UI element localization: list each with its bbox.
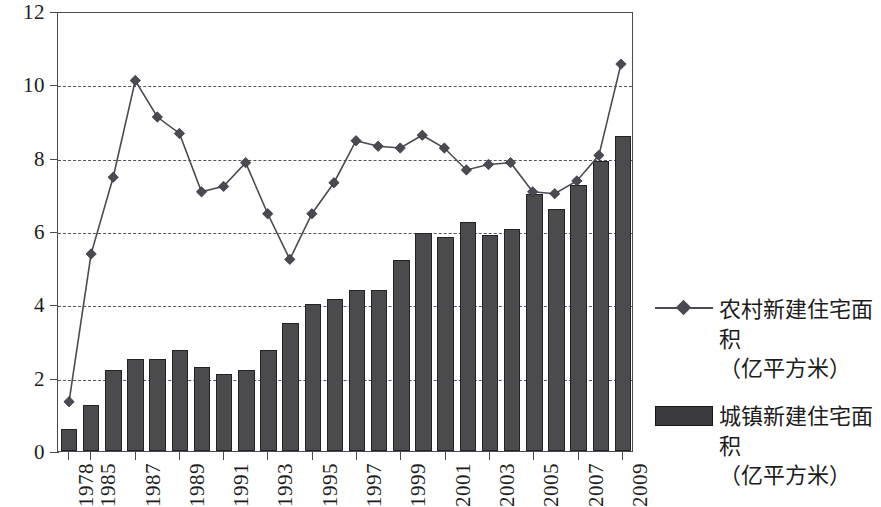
x-tick-label: 2009 — [630, 463, 651, 507]
x-tick-mark — [533, 452, 534, 460]
chart-figure: 024681012 197819851987198919911993199519… — [0, 0, 881, 507]
x-tick-mark — [400, 452, 401, 460]
legend-label-line1: 农村新建住宅面积 — [719, 295, 881, 354]
x-tick-label: 1991 — [231, 463, 252, 507]
chart-legend: 农村新建住宅面积（亿平方米）城镇新建住宅面积（亿平方米） — [655, 295, 881, 507]
x-tick-mark — [445, 452, 446, 460]
x-tick-mark — [135, 452, 136, 460]
x-tick-mark — [68, 452, 69, 460]
x-tick-mark — [267, 452, 268, 460]
legend-entry[interactable]: 农村新建住宅面积（亿平方米） — [655, 295, 881, 384]
x-tick-mark — [90, 452, 91, 460]
x-tick-mark — [622, 452, 623, 460]
legend-line-marker-icon — [655, 295, 713, 321]
legend-label-line2: （亿平方米） — [719, 354, 881, 384]
legend-bar-swatch-icon — [655, 402, 713, 428]
legend-swatch-icon — [655, 406, 713, 426]
x-tick-label: 2001 — [453, 463, 474, 507]
x-tick-label: 1985 — [98, 463, 119, 507]
legend-diamond-icon — [676, 300, 692, 316]
legend-label-line2: （亿平方米） — [719, 461, 881, 491]
x-tick-label: 2007 — [586, 463, 607, 507]
legend-row: 城镇新建住宅面积 — [655, 402, 881, 461]
x-tick-label: 1993 — [275, 463, 296, 507]
x-tick-mark — [578, 452, 579, 460]
x-tick-label: 1997 — [364, 463, 385, 507]
x-tick-mark — [489, 452, 490, 460]
x-tick-mark — [179, 452, 180, 460]
x-tick-label: 1999 — [408, 463, 429, 507]
x-tick-label: 1995 — [320, 463, 341, 507]
legend-label-line1: 城镇新建住宅面积 — [719, 402, 881, 461]
x-tick-label: 1987 — [143, 463, 164, 507]
x-tick-mark — [312, 452, 313, 460]
x-tick-label: 2005 — [541, 463, 562, 507]
legend-row: 农村新建住宅面积 — [655, 295, 881, 354]
x-tick-mark — [356, 452, 357, 460]
x-tick-label: 2003 — [497, 463, 518, 507]
x-tick-label: 1989 — [187, 463, 208, 507]
x-tick-mark — [223, 452, 224, 460]
x-tick-label: 1978 — [76, 463, 97, 507]
legend-entry[interactable]: 城镇新建住宅面积（亿平方米） — [655, 402, 881, 491]
